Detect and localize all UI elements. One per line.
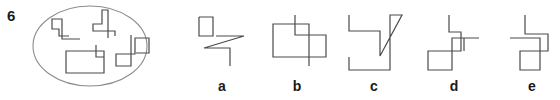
figure-top-middle bbox=[93, 10, 115, 38]
answer-options: abcde bbox=[199, 15, 548, 94]
puzzle-canvas: 6 abcde bbox=[0, 0, 560, 100]
option-a[interactable]: a bbox=[199, 17, 244, 94]
option-e-figure bbox=[510, 15, 548, 70]
option-c[interactable]: c bbox=[349, 15, 402, 94]
option-c-figure bbox=[349, 15, 402, 70]
option-d-label: d bbox=[450, 78, 459, 94]
option-b-label: b bbox=[293, 78, 302, 94]
option-a-label: a bbox=[218, 78, 226, 94]
option-c-label: c bbox=[370, 78, 378, 94]
option-d[interactable]: d bbox=[428, 15, 479, 94]
figure-right bbox=[116, 35, 149, 66]
option-a-figure bbox=[199, 17, 244, 66]
option-b[interactable]: b bbox=[273, 15, 326, 94]
stimulus-figures bbox=[52, 10, 149, 73]
option-e[interactable]: e bbox=[510, 15, 548, 94]
stimulus-ellipse bbox=[33, 6, 147, 86]
option-e-label: e bbox=[528, 78, 536, 94]
option-d-figure bbox=[428, 15, 479, 70]
figure-bottom-left bbox=[66, 45, 104, 73]
question-number: 6 bbox=[7, 7, 15, 24]
option-b-figure bbox=[273, 15, 326, 66]
figure-top-left bbox=[52, 19, 80, 39]
